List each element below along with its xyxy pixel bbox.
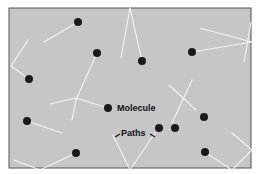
molecule-dot bbox=[104, 104, 112, 112]
molecule-dot bbox=[93, 49, 101, 57]
molecule-dot bbox=[200, 113, 208, 121]
molecule-dot bbox=[201, 148, 209, 156]
molecule-dot bbox=[188, 48, 196, 56]
paths-label: Paths bbox=[121, 128, 146, 138]
molecule-dot bbox=[138, 57, 146, 65]
molecule-paths-diagram: Molecule Paths bbox=[0, 0, 264, 174]
molecule-label: Molecule bbox=[117, 103, 156, 113]
molecule-dot bbox=[72, 149, 80, 157]
molecule-dot bbox=[74, 18, 82, 26]
molecule-dot bbox=[171, 124, 179, 132]
molecule-dot bbox=[25, 75, 33, 83]
molecule-dot bbox=[23, 117, 31, 125]
molecule-dot bbox=[155, 124, 163, 132]
